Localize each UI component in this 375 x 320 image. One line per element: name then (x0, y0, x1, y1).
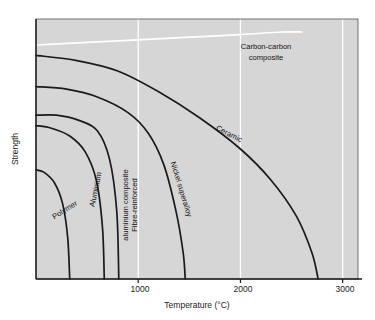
series-label-carbon-carbon-line1: Carbon-carbon (241, 42, 292, 51)
chart-svg: 1000 2000 3000 Temperature (°C) Strength… (0, 0, 375, 320)
strength-vs-temperature-chart: 1000 2000 3000 Temperature (°C) Strength… (0, 0, 375, 320)
series-label-carbon-carbon-line2: composite (249, 53, 284, 62)
series-label-fibre-reinforced-line1: Fibre-reinforced (130, 178, 139, 232)
x-tick-label-2000: 2000 (234, 284, 253, 294)
x-axis-title: Temperature (°C) (164, 300, 229, 310)
y-axis-title: Strength (10, 133, 20, 165)
x-tick-label-1000: 1000 (131, 284, 150, 294)
series-label-fibre-reinforced-line2: aluminium composite (121, 169, 130, 240)
x-tick-label-3000: 3000 (336, 284, 355, 294)
